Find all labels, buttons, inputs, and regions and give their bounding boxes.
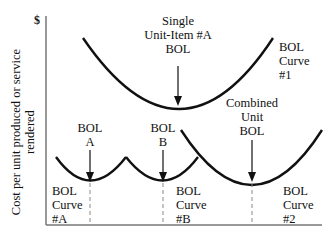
label-bol-curve-b: BOL Curve #B xyxy=(176,184,207,226)
arrow-bol-a xyxy=(86,150,94,182)
label-bol-curve-a: BOL Curve #A xyxy=(52,184,83,226)
label-combined-unit-bol: Combined Unit BOL xyxy=(214,96,290,138)
label-single-unit-item-bol: Single Unit-Item #A BOL xyxy=(138,14,218,56)
label-bol-b: BOL B xyxy=(145,121,181,149)
label-bol-curve-1: BOL Curve #1 xyxy=(279,40,310,82)
arrow-single-unit-bol xyxy=(174,66,182,106)
arrow-combined-unit-bol xyxy=(248,140,256,182)
arrow-bol-b xyxy=(159,150,167,182)
label-bol-a: BOL A xyxy=(72,121,108,149)
label-bol-curve-2: BOL Curve #2 xyxy=(283,184,314,226)
